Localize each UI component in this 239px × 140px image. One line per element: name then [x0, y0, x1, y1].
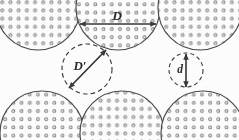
- scan-grain-overlay: [0, 0, 239, 140]
- sphere-packing-diagram: D D′ d: [0, 0, 239, 140]
- figure-canvas: D D′ d: [0, 0, 239, 140]
